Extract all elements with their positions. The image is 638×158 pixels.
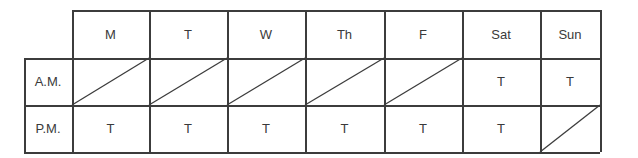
diagonal-layer	[0, 0, 638, 158]
cell-strike-diagonal	[540, 105, 600, 152]
cell-strike-diagonal	[305, 58, 384, 105]
cell-strike-diagonal	[227, 58, 305, 105]
cell-strike-diagonal	[149, 58, 227, 105]
cell-strike-diagonal	[384, 58, 462, 105]
cell-strike-diagonal	[72, 58, 149, 105]
